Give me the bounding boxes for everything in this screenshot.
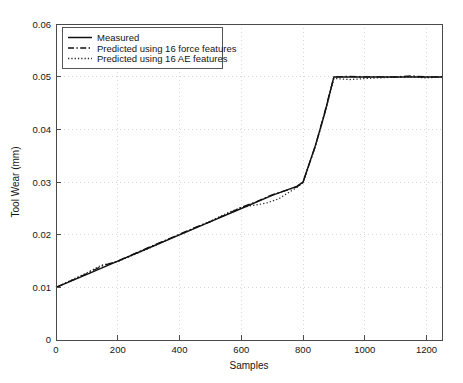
x-tick-label: 1000 (354, 344, 375, 355)
x-axis-title: Samples (230, 360, 269, 371)
x-tick-label: 0 (53, 344, 58, 355)
x-tick-label: 1200 (416, 344, 437, 355)
x-tick-label: 800 (295, 344, 311, 355)
tool-wear-line-chart: 0 0.01 0.02 0.03 0.04 0.05 0.06 0 200 40… (0, 0, 463, 383)
y-tick-label: 0.03 (33, 177, 52, 188)
y-tick-label: 0.05 (33, 71, 52, 82)
x-tick-label: 400 (172, 344, 188, 355)
y-tick-label: 0.01 (33, 282, 52, 293)
y-tick-label: 0.06 (33, 19, 52, 30)
y-tick-label: 0.04 (33, 124, 52, 135)
y-axis-title: Tool Wear (mm) (10, 147, 21, 218)
chart-legend: Measured Predicted using 16 force featur… (62, 28, 237, 69)
legend-label-ae: Predicted using 16 AE features (97, 53, 228, 64)
legend-label-force: Predicted using 16 force features (97, 43, 237, 54)
y-tick-label: 0 (46, 334, 51, 345)
chart-figure: 0 0.01 0.02 0.03 0.04 0.05 0.06 0 200 40… (0, 0, 463, 383)
y-tick-label: 0.02 (33, 229, 52, 240)
x-tick-label: 200 (110, 344, 126, 355)
legend-label-measured: Measured (97, 32, 139, 43)
x-tick-label: 600 (233, 344, 249, 355)
